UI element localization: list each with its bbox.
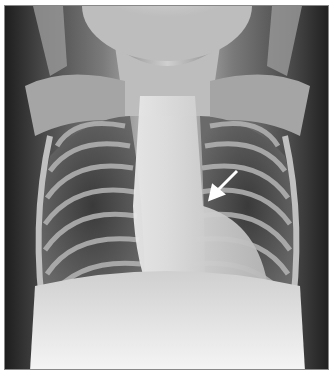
- xray-rendering: [5, 6, 329, 370]
- chest-xray-image: [4, 5, 329, 370]
